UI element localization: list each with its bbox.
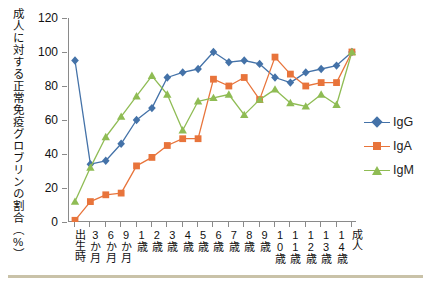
- data-point-marker: [225, 83, 232, 90]
- data-point-marker: [272, 54, 279, 61]
- x-tick-mark: [305, 222, 306, 227]
- x-tick-mark: [105, 222, 106, 227]
- bottom-rule: [8, 275, 423, 278]
- y-tick-mark: [62, 52, 67, 53]
- data-point-marker: [178, 126, 186, 133]
- series-IgA: [72, 49, 356, 222]
- data-point-marker: [148, 104, 156, 112]
- y-tick-label: 60: [26, 113, 58, 127]
- legend-label: IgG: [393, 115, 413, 129]
- legend-label: IgM: [393, 163, 414, 177]
- y-tick-label: 40: [26, 147, 58, 161]
- y-axis-title: 成人に対する正常免疫グロブリンの割合（%）: [2, 8, 24, 240]
- legend-label: IgA: [393, 139, 412, 153]
- y-tick-label: 0: [26, 215, 58, 229]
- series-line: [75, 52, 352, 202]
- x-tick-mark: [351, 222, 352, 227]
- legend-marker: [372, 166, 382, 175]
- chart-figure: 成人に対する正常免疫グロブリンの割合（%） 020406080100120 出生…: [0, 0, 431, 282]
- data-point-marker: [287, 71, 294, 78]
- y-tick-mark: [62, 222, 67, 223]
- x-tick-mark: [182, 222, 183, 227]
- y-tick-label: 100: [26, 45, 58, 59]
- x-tick-mark: [89, 222, 90, 227]
- y-tick-mark: [62, 120, 67, 121]
- chart-legend: IgGIgAIgM: [364, 110, 428, 182]
- legend-swatch-diamond-icon: [364, 115, 390, 129]
- data-point-marker: [210, 76, 217, 83]
- plot-area: [68, 18, 356, 222]
- x-tick-mark: [197, 222, 198, 227]
- y-tick-mark: [62, 86, 67, 87]
- x-tick-mark: [166, 222, 167, 227]
- legend-marker: [371, 116, 382, 127]
- series-IgG: [71, 48, 356, 169]
- data-point-marker: [333, 79, 340, 86]
- data-point-marker: [164, 142, 171, 149]
- data-point-marker: [287, 78, 295, 86]
- data-point-marker: [87, 198, 94, 205]
- data-point-marker: [225, 58, 233, 66]
- legend-item-IgM[interactable]: IgM: [364, 158, 428, 182]
- x-tick-mark: [243, 222, 244, 227]
- data-point-marker: [118, 190, 125, 197]
- x-tick-label: 成人: [340, 229, 362, 275]
- x-tick-mark: [274, 222, 275, 227]
- data-point-marker: [317, 90, 325, 97]
- y-tick-label: 20: [26, 181, 58, 195]
- legend-swatch-square-icon: [364, 139, 390, 153]
- data-point-marker: [271, 85, 279, 92]
- x-tick-mark: [74, 222, 75, 227]
- legend-item-IgA[interactable]: IgA: [364, 134, 428, 158]
- y-tick-label: 120: [26, 11, 58, 25]
- data-point-marker: [133, 163, 140, 170]
- data-point-marker: [102, 191, 109, 198]
- data-point-marker: [179, 135, 186, 142]
- legend-marker: [373, 142, 381, 150]
- data-point-marker: [302, 83, 309, 90]
- x-tick-mark: [336, 222, 337, 227]
- data-point-marker: [179, 68, 187, 76]
- data-point-marker: [71, 56, 79, 64]
- legend-swatch-triangle-icon: [364, 163, 390, 177]
- data-point-marker: [148, 72, 156, 79]
- y-tick-mark: [62, 154, 67, 155]
- x-tick-mark: [136, 222, 137, 227]
- x-tick-mark: [289, 222, 290, 227]
- x-tick-mark: [320, 222, 321, 227]
- data-point-marker: [149, 154, 156, 161]
- x-tick-mark: [259, 222, 260, 227]
- x-tick-mark: [212, 222, 213, 227]
- x-tick-mark: [120, 222, 121, 227]
- data-point-marker: [164, 73, 172, 81]
- data-point-marker: [71, 197, 79, 204]
- data-point-marker: [302, 68, 310, 76]
- x-tick-mark: [151, 222, 152, 227]
- y-tick-label: 80: [26, 79, 58, 93]
- legend-item-IgG[interactable]: IgG: [364, 110, 428, 134]
- data-point-marker: [195, 135, 202, 142]
- x-tick-mark: [228, 222, 229, 227]
- data-point-marker: [240, 56, 248, 64]
- y-tick-mark: [62, 188, 67, 189]
- series-line: [75, 52, 352, 164]
- y-tick-mark: [62, 18, 67, 19]
- data-point-marker: [241, 74, 248, 81]
- data-point-marker: [332, 101, 340, 108]
- data-point-marker: [318, 79, 325, 86]
- data-point-marker: [317, 65, 325, 73]
- data-point-marker: [225, 90, 233, 97]
- data-point-marker: [72, 217, 79, 222]
- series-canvas: [69, 18, 357, 222]
